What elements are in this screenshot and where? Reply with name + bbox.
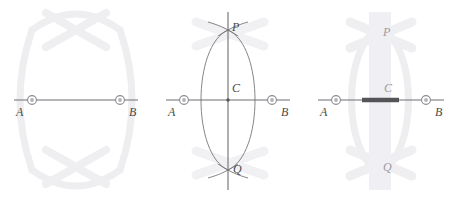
label-q: Q	[383, 161, 392, 173]
panel-step-1: A B	[0, 0, 152, 197]
label-b: B	[435, 106, 442, 118]
point-marker-a	[28, 96, 37, 105]
panel-step-2: A B C P Q	[152, 0, 304, 197]
label-p: P	[383, 26, 390, 38]
point-marker-b	[116, 96, 125, 105]
ghost-halo	[196, 22, 264, 175]
label-b: B	[281, 106, 288, 118]
label-b: B	[129, 106, 136, 118]
point-marker-a	[332, 96, 341, 105]
label-a: A	[16, 106, 23, 118]
construction-figure: A B	[0, 0, 457, 197]
panel-step-3: A B C P Q	[304, 0, 457, 197]
label-q: Q	[233, 163, 242, 175]
point-marker-b	[268, 96, 277, 105]
label-c: C	[232, 82, 240, 94]
point-c-dot	[226, 98, 229, 101]
label-a: A	[168, 106, 175, 118]
label-c: C	[384, 82, 392, 94]
point-marker-a	[180, 96, 189, 105]
label-p: P	[232, 21, 239, 33]
point-marker-b	[422, 96, 431, 105]
label-a: A	[320, 106, 327, 118]
